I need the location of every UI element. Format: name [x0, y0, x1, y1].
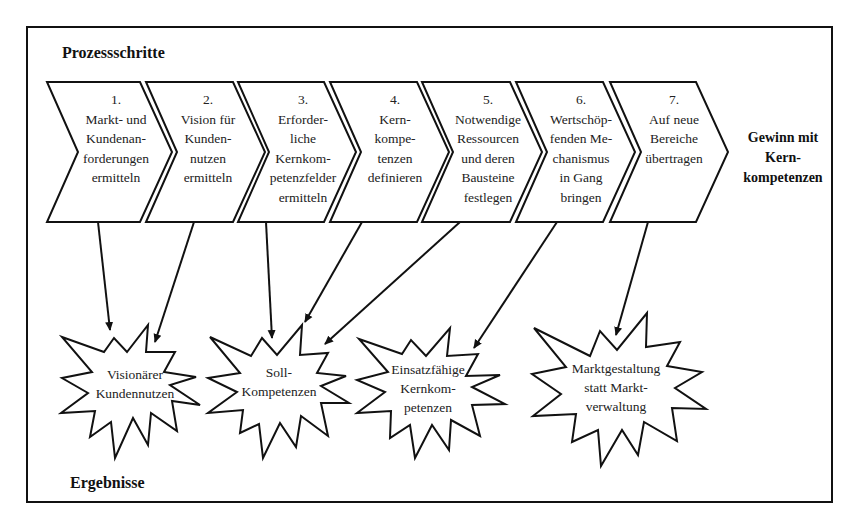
- process-diagram: Prozessschritte Ergebnisse 1. Markt- und…: [0, 0, 857, 529]
- process-steps-heading: Prozessschritte: [62, 44, 165, 62]
- result-label-3: Einsatzfähige Kernkom- petenzen: [373, 360, 483, 417]
- result-label-2: Soll- Kompetenzen: [226, 363, 332, 401]
- step-label-4: 4. Kern- kompe- tenzen definieren: [349, 90, 441, 188]
- connection-arrows: [98, 222, 648, 348]
- arrow-step5-to-result2: [325, 222, 460, 344]
- result-label-4: Marktgestaltung statt Markt- verwaltung: [560, 359, 672, 416]
- step-label-1: 1. Markt- und Kundenan- forderungen ermi…: [68, 90, 164, 188]
- step-label-2: 2. Vision für Kunden- nutzen ermitteln: [162, 90, 254, 188]
- result-label-1: Visionärer Kundennutzen: [80, 365, 190, 403]
- step-label-7: 7. Auf neue Bereiche übertragen: [628, 90, 720, 168]
- arrow-step2-to-result1: [155, 222, 194, 342]
- arrow-step3-to-result2: [266, 222, 272, 338]
- arrow-step1-to-result1: [98, 222, 110, 330]
- outcome-label: Gewinn mit Kern- kompetenzen: [730, 128, 836, 188]
- step-label-6: 6. Wertschöp- fenden Me- chanismus in Ga…: [534, 90, 628, 207]
- results-heading: Ergebnisse: [70, 474, 145, 492]
- arrow-step4-to-result2: [305, 222, 362, 322]
- step-label-3: 3. Erforder- liche Kernkom- petenzfelder…: [257, 90, 349, 207]
- step-label-5: 5. Notwendige Ressourcen und deren Baust…: [439, 90, 537, 207]
- arrow-step6-to-result3: [474, 222, 557, 348]
